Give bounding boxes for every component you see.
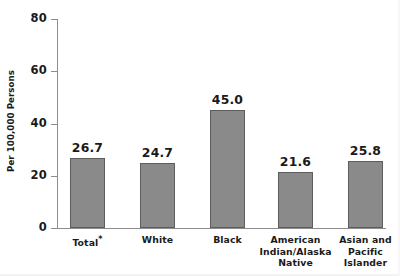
bar: [140, 163, 175, 228]
bar: [70, 158, 105, 228]
bar: [278, 172, 313, 228]
category-label-line: White: [120, 234, 196, 246]
category-label-line: Asian and: [328, 234, 400, 246]
bar-value-label: 24.7: [128, 147, 188, 159]
bar: [348, 161, 383, 228]
y-axis-tick-mark: [51, 228, 57, 229]
y-axis-line: [57, 19, 58, 229]
x-axis-category-label: Total*: [50, 234, 126, 249]
bar-value-label: 45.0: [198, 94, 258, 106]
x-axis-category-label: AmericanIndian/AlaskaNative: [258, 234, 334, 269]
bar: [210, 110, 245, 228]
y-axis-tick-mark: [51, 71, 57, 72]
y-axis-tick-label: 40: [5, 118, 47, 130]
bar-value-label: 26.7: [58, 142, 118, 154]
x-axis-category-label: Black: [190, 234, 266, 246]
y-axis-tick-label: 60: [5, 65, 47, 77]
y-axis-tick-mark: [51, 124, 57, 125]
footnote-marker: *: [98, 235, 102, 244]
y-axis-tick-label: 80: [5, 13, 47, 25]
y-axis-tick-label: 20: [5, 170, 47, 182]
x-axis-category-label: Asian andPacificIslander: [328, 234, 400, 269]
bar-value-label: 21.6: [266, 156, 326, 168]
category-label-line: Native: [258, 257, 334, 269]
x-axis-category-label: White: [120, 234, 196, 246]
category-label-line: Indian/Alaska: [258, 246, 334, 258]
category-label-line: American: [258, 234, 334, 246]
bar-value-label: 25.8: [336, 145, 396, 157]
category-label-line: Total*: [50, 234, 126, 249]
y-axis-tick-label: 0: [5, 222, 47, 234]
category-label-line: Black: [190, 234, 266, 246]
bar-chart-figure: Per 100,000 Persons 020406080 26.724.745…: [0, 0, 400, 276]
y-axis-tick-mark: [51, 19, 57, 20]
x-axis-line: [57, 228, 386, 229]
category-label-line: Islander: [328, 257, 400, 269]
category-label-line: Pacific: [328, 246, 400, 258]
y-axis-tick-mark: [51, 176, 57, 177]
